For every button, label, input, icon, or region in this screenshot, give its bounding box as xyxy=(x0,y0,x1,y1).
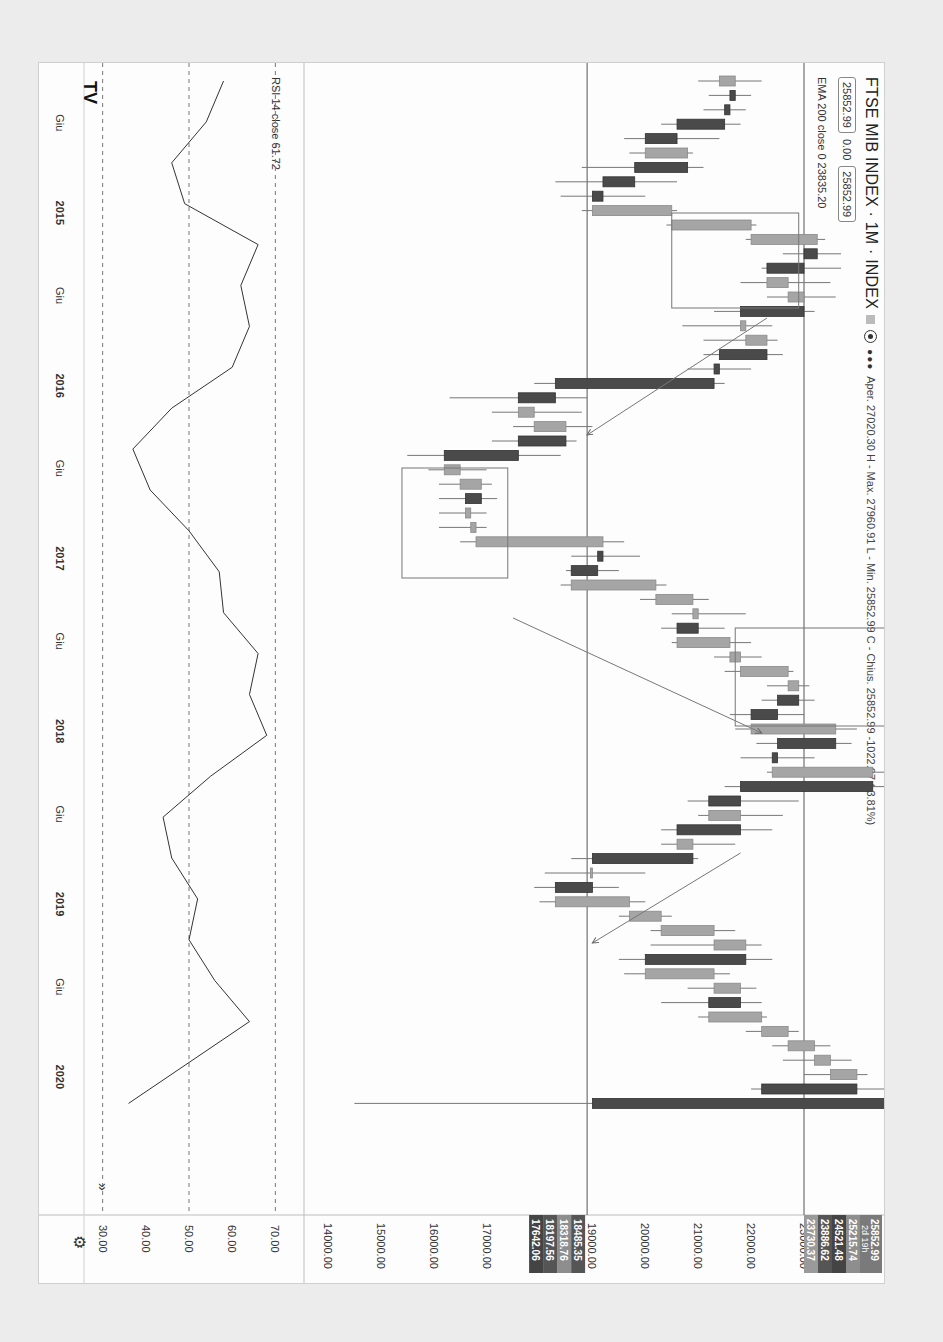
candle[interactable] xyxy=(709,796,741,806)
candle[interactable] xyxy=(714,364,719,374)
candle[interactable] xyxy=(778,695,799,705)
candle[interactable] xyxy=(592,1098,884,1108)
candle[interactable] xyxy=(555,897,629,907)
rsi-axis-label: 40.00 xyxy=(140,1225,152,1253)
candle[interactable] xyxy=(788,1041,814,1051)
candle[interactable] xyxy=(788,681,799,691)
candle[interactable] xyxy=(719,76,735,86)
candle[interactable] xyxy=(635,162,688,172)
candle[interactable] xyxy=(677,119,725,129)
candle[interactable] xyxy=(677,825,740,835)
price-chart[interactable]: 14000.0015000.0016000.0017000.0019000.00… xyxy=(39,63,884,1283)
candle[interactable] xyxy=(762,1084,857,1094)
price-axis-label: 17000.00 xyxy=(481,1223,493,1269)
svg-text:23886.62: 23886.62 xyxy=(819,1219,830,1261)
candle[interactable] xyxy=(746,335,767,345)
candle[interactable] xyxy=(778,738,836,748)
candle[interactable] xyxy=(555,378,714,388)
time-axis-label: 2020 xyxy=(54,1065,66,1089)
candle[interactable] xyxy=(661,926,714,936)
price-axis-label: 19000.00 xyxy=(586,1223,598,1269)
candle[interactable] xyxy=(714,983,740,993)
time-axis-label: Giu xyxy=(54,805,66,822)
candle[interactable] xyxy=(751,234,817,244)
candle[interactable] xyxy=(645,134,677,144)
rsi-axis-label: 60.00 xyxy=(226,1225,238,1253)
candle[interactable] xyxy=(444,450,518,460)
candle[interactable] xyxy=(741,321,746,331)
rsi-axis-label: 50.00 xyxy=(183,1225,195,1253)
rsi-axis-label: 30.00 xyxy=(97,1225,109,1253)
candle[interactable] xyxy=(772,767,873,777)
time-axis-label: Giu xyxy=(54,978,66,995)
price-axis-label: 20000.00 xyxy=(639,1223,651,1269)
svg-text:18197.56: 18197.56 xyxy=(544,1219,555,1261)
time-axis-label: Giu xyxy=(54,633,66,650)
svg-text:17642.06: 17642.06 xyxy=(530,1219,541,1261)
candle[interactable] xyxy=(762,1026,788,1036)
candle[interactable] xyxy=(677,623,698,633)
svg-text:24521.48: 24521.48 xyxy=(833,1219,844,1261)
candle[interactable] xyxy=(518,393,555,403)
svg-text:2d 19h: 2d 19h xyxy=(860,1225,870,1253)
candle[interactable] xyxy=(730,90,735,100)
candle[interactable] xyxy=(645,954,746,964)
rsi-axis-label: 70.00 xyxy=(269,1225,281,1253)
time-axis-label: 2019 xyxy=(54,892,66,916)
candle[interactable] xyxy=(571,580,656,590)
gear-icon[interactable]: ⚙ xyxy=(71,1235,88,1249)
candle[interactable] xyxy=(592,206,671,216)
tradingview-logo[interactable]: TV xyxy=(79,81,100,104)
candle[interactable] xyxy=(714,940,746,950)
candle[interactable] xyxy=(518,436,566,446)
price-axis-label: 14000.00 xyxy=(322,1223,334,1269)
candle[interactable] xyxy=(645,148,687,158)
candle[interactable] xyxy=(772,753,777,763)
candle[interactable] xyxy=(709,998,741,1008)
svg-text:25852.99: 25852.99 xyxy=(869,1219,880,1261)
candle[interactable] xyxy=(751,710,777,720)
time-axis-label: Giu xyxy=(54,114,66,131)
candle[interactable] xyxy=(693,609,698,619)
candle[interactable] xyxy=(656,594,693,604)
candle[interactable] xyxy=(677,638,730,648)
candle[interactable] xyxy=(555,882,592,892)
candle[interactable] xyxy=(444,465,460,475)
candle[interactable] xyxy=(725,105,730,115)
candle[interactable] xyxy=(471,522,476,532)
svg-text:25215.74: 25215.74 xyxy=(847,1219,858,1261)
candle[interactable] xyxy=(741,666,789,676)
candle[interactable] xyxy=(592,854,693,864)
candle[interactable] xyxy=(518,407,534,417)
arrow-drawing[interactable] xyxy=(587,318,767,435)
candle[interactable] xyxy=(460,479,481,489)
candle[interactable] xyxy=(465,508,470,518)
time-axis-label: Giu xyxy=(54,460,66,477)
candle[interactable] xyxy=(571,566,597,576)
arrow-drawing[interactable] xyxy=(513,618,762,733)
candle[interactable] xyxy=(590,868,592,878)
candle[interactable] xyxy=(677,839,693,849)
candle[interactable] xyxy=(741,782,873,792)
candle[interactable] xyxy=(465,494,481,504)
candle[interactable] xyxy=(804,249,817,259)
time-axis-label: 2017 xyxy=(54,546,66,570)
svg-text:23730.37: 23730.37 xyxy=(805,1219,816,1261)
candle[interactable] xyxy=(598,551,603,561)
candle[interactable] xyxy=(815,1055,831,1065)
candle[interactable] xyxy=(476,537,603,547)
candle[interactable] xyxy=(672,220,751,230)
candle[interactable] xyxy=(709,1012,762,1022)
candle[interactable] xyxy=(767,278,788,288)
candle[interactable] xyxy=(830,1070,856,1080)
candle[interactable] xyxy=(592,191,603,201)
time-axis-label: 2018 xyxy=(54,719,66,743)
double-chevron-right-icon[interactable]: » xyxy=(95,1183,111,1191)
candle[interactable] xyxy=(709,810,741,820)
candle[interactable] xyxy=(603,177,635,187)
candle[interactable] xyxy=(719,350,767,360)
candle[interactable] xyxy=(788,292,804,302)
candle[interactable] xyxy=(645,969,714,979)
candle[interactable] xyxy=(534,422,566,432)
candle[interactable] xyxy=(629,911,661,921)
